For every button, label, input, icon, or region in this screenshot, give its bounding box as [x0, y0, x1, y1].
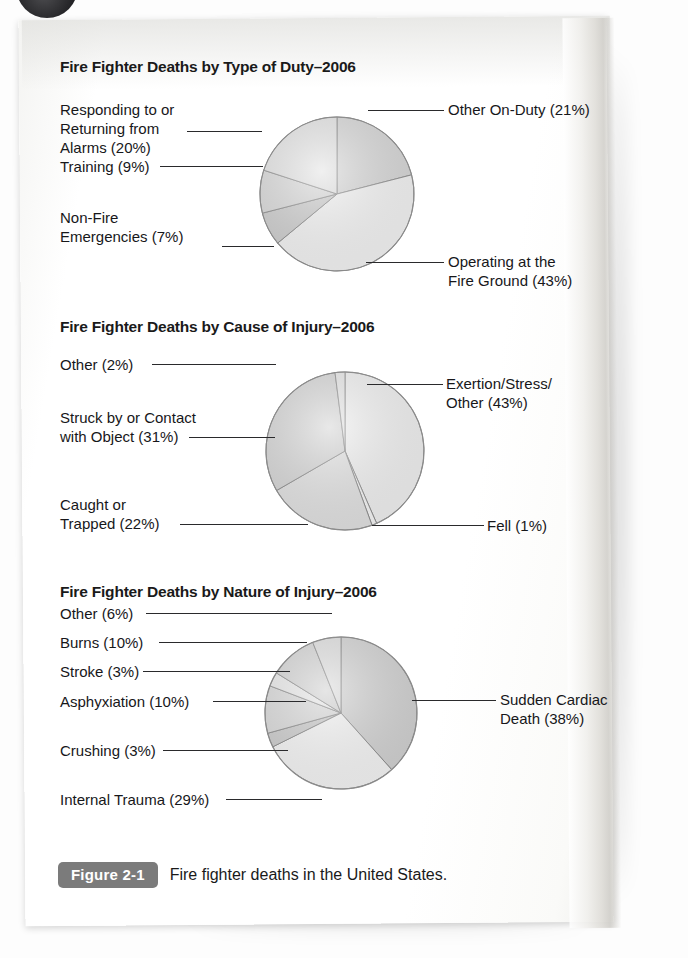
pie1-label-non-fire-emergencies: Non-Fire Emergencies (7%) — [60, 208, 183, 246]
pie3-leader-asphyxiation — [213, 701, 306, 702]
pie2-leader-exertion — [367, 384, 443, 385]
pie2-leader-struck — [189, 437, 275, 438]
pie1-label-other-on-duty: Other On-Duty (21%) — [448, 100, 590, 119]
pie2-leader-fell — [372, 525, 484, 526]
pie-chart-type-of-duty — [258, 115, 416, 273]
pie3-leader-other — [146, 613, 332, 614]
pie1-leader-training — [160, 166, 263, 167]
pie3-leader-stroke — [143, 671, 290, 672]
figure-content: Fire Fighter Deaths by Type of Duty–2006… — [0, 0, 688, 958]
pie2-label-struck-by-contact: Struck by or Contact with Object (31%) — [60, 408, 196, 446]
pie2-leader-other — [152, 364, 276, 365]
pie-svg-type-of-duty — [258, 115, 416, 273]
pie2-label-exertion-stress-other: Exertion/Stress/ Other (43%) — [446, 374, 552, 412]
chart-title-nature-of-injury: Fire Fighter Deaths by Nature of Injury–… — [60, 583, 377, 601]
pie3-label-burns: Burns (10%) — [60, 633, 143, 652]
pie3-leader-internal-trauma — [226, 799, 322, 800]
pie1-leader-other-onduty — [368, 110, 444, 111]
pie3-leader-crushing — [163, 750, 288, 751]
pie2-label-caught-or-trapped: Caught or Trapped (22%) — [60, 495, 160, 533]
pie1-label-operating-fire-ground: Operating at the Fire Ground (43%) — [448, 252, 572, 290]
figure-number-badge: Figure 2-1 — [58, 862, 158, 888]
pie-chart-cause-of-injury — [264, 370, 426, 532]
pie3-label-crushing: Crushing (3%) — [60, 741, 156, 760]
figure-screenshot: Fire Fighter Deaths by Type of Duty–2006… — [0, 0, 688, 958]
pie1-label-training: Training (9%) — [60, 157, 149, 176]
figure-caption-text: Fire fighter deaths in the United States… — [170, 866, 447, 884]
pie3-leader-burns — [159, 642, 307, 643]
pie-svg-nature-of-injury — [263, 635, 419, 791]
chart-title-cause-of-injury: Fire Fighter Deaths by Cause of Injury–2… — [60, 318, 374, 336]
pie3-label-internal-trauma: Internal Trauma (29%) — [60, 790, 209, 809]
pie1-leader-operating — [366, 262, 444, 263]
pie2-label-fell: Fell (1%) — [487, 516, 547, 535]
pie-svg-cause-of-injury — [264, 370, 426, 532]
pie1-leader-responding — [187, 131, 262, 132]
pie-chart-nature-of-injury — [263, 635, 419, 791]
pie2-label-other: Other (2%) — [60, 355, 133, 374]
figure-caption-row: Figure 2-1 Fire fighter deaths in the Un… — [58, 862, 447, 888]
pie3-leader-sudden-cardiac — [412, 700, 496, 701]
pie3-label-stroke: Stroke (3%) — [60, 662, 139, 681]
pie1-leader-nonfire — [222, 246, 274, 247]
pie3-label-asphyxiation: Asphyxiation (10%) — [60, 692, 189, 711]
chart-title-type-of-duty: Fire Fighter Deaths by Type of Duty–2006 — [60, 58, 356, 76]
pie2-leader-caught — [180, 524, 308, 525]
pie3-label-other: Other (6%) — [60, 604, 133, 623]
pie3-label-sudden-cardiac-death: Sudden Cardiac Death (38%) — [500, 690, 608, 728]
pie1-label-responding-returning-alarms: Responding to or Returning from Alarms (… — [60, 100, 174, 157]
